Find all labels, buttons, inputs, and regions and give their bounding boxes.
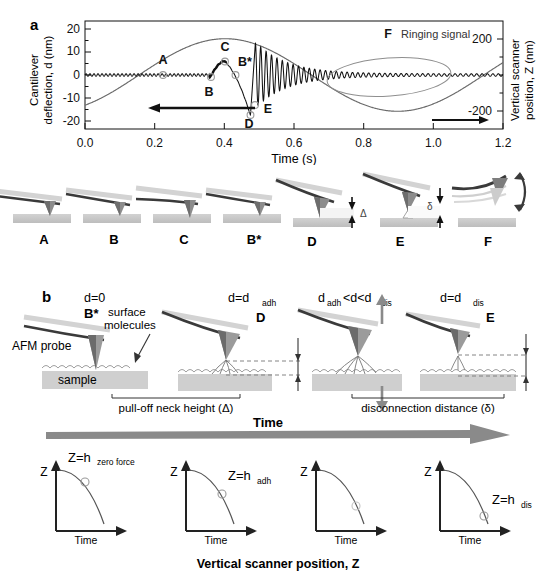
surface-molecules-line1: surface [108,306,146,318]
xtick-2: 0.4 [216,136,233,150]
pull-off-label: pull-off neck height (Δ) [119,402,234,414]
right-axis-arrow [432,116,489,124]
xtick-3: 0.6 [286,136,303,150]
time-arrow-label: Time [253,415,283,430]
svg-text:adh: adh [262,298,276,308]
axis-label-x: Time (s) [271,152,316,165]
schematic-c-label: C [179,232,189,247]
schematic-f-label: F [484,234,492,249]
ringing-signal-label: Ringing signal [401,28,470,40]
mini-plot-2-x-label: Time [205,534,228,546]
sample-label: sample [58,373,97,387]
ytick-left-n10: -10 [63,91,81,105]
schematic-d-label: D [307,234,316,249]
ytick-right-n200: -200 [468,104,492,118]
label-d: D [244,117,253,131]
label-c: C [220,40,229,54]
surface-molecules-4 [420,370,516,373]
surface-molecules-3 [312,370,400,373]
svg-text:d: d [318,291,325,305]
schematic-bstar-label: B* [247,232,262,247]
panel-a-label: a [30,16,39,33]
small-delta-symbol: δ [427,201,433,212]
stage-e: E [406,310,529,391]
panel-a-chart: a Cantilever deflection, d (nm) Vertical… [0,0,556,165]
axis-label-right-line1: Vertical scanner [509,39,521,121]
xtick-6: 1.2 [495,136,512,150]
xtick-0: 0.0 [77,136,94,150]
svg-text:adh: adh [327,298,341,308]
xtick-4: 0.8 [355,136,372,150]
axis-label-right-line2: position, Z (nm) [523,40,535,120]
mini-plot-4: Z Time Z=h dis [424,460,532,546]
schematic-b-label: B [109,232,118,247]
label-a: A [158,53,167,67]
stage-1-point-label: B* [84,306,99,321]
schematic-a: A [0,191,71,247]
stage-1-condition: d=0 [84,291,105,305]
schematic-bstar: B* [206,190,281,247]
mini-plot-4-annotation-sub: dis [521,500,532,510]
surface-molecules-line2: molecules [104,319,156,331]
ytick-left-20: 20 [67,22,81,36]
schematic-e: δ E [363,174,444,249]
sample-block-2 [178,374,272,391]
mini-plot-1-y-label: Z [40,465,47,479]
mini-plot-2-y-label: Z [170,465,177,479]
panel-b-label: b [42,288,51,305]
svg-text:d=d: d=d [228,291,249,305]
mini-plot-1-x-label: Time [75,534,98,546]
label-b: B [204,85,213,99]
mini-plot-4-annotation: Z=h [492,492,515,507]
svg-text:d=d: d=d [440,291,461,305]
ytick-left-10: 10 [67,44,81,58]
stage-4-point-label: E [486,310,495,325]
axis-label-left-line2: deflection, d (nm) [42,35,54,124]
schematic-b: B [66,190,141,247]
ytick-right-200: 200 [472,32,492,46]
disconnection-label: disconnection distance (δ) [361,402,495,414]
stage-2-point-label: D [256,310,265,325]
label-e: E [264,102,272,116]
mini-plot-1-annotation: Z=h [68,450,91,465]
xtick-5: 1.0 [425,136,442,150]
mini-plot-3-y-label: Z [300,465,307,479]
ytick-left-0: 0 [73,68,80,82]
ytick-left-n20: -20 [63,114,81,128]
label-bstar: B* [238,55,252,69]
series-deflection [85,43,503,115]
afm-probe-label: AFM probe [12,339,72,353]
mini-plot-2-annotation: Z=h [228,468,251,483]
label-f: F [384,27,392,41]
stage-d: D [162,310,301,391]
mini-plot-1: Z Time Z=h zero force [40,450,135,546]
mini-plot-3: Z Time [300,460,387,546]
mini-plot-2: Z Time Z=h adh [170,460,271,546]
schematic-e-label: E [396,234,405,249]
neck-strands-3 [336,356,376,374]
time-arrow-group: Time [0,414,556,444]
surface-molecules-arrow [134,334,150,363]
delta-bracket-2 [295,338,301,391]
schematic-d: Δ D [276,180,367,249]
mini-plots-caption: Vertical scanner position, Z [197,557,360,571]
schematics-row: A B C B* [0,166,556,278]
delta-symbol: Δ [360,208,367,219]
stage-b-star: B* AFM probe sample surface molecules [12,306,156,389]
mini-plot-2-annotation-sub: adh [257,476,271,486]
sample-block-4 [420,374,516,391]
figure-root: a Cantilever deflection, d (nm) Vertical… [0,0,556,575]
mini-plots-row: Z Time Z=h zero force Z Time Z=h adh Z T… [0,446,556,575]
stage-between [298,294,402,412]
stage-4-condition: d=d dis [440,291,484,308]
axis-label-left-line1: Cantilever [28,54,40,106]
sample-block-3 [312,374,402,391]
mini-plot-4-x-label: Time [459,534,482,546]
stage-2-condition: d=d adh [228,291,276,308]
disconnection-bracket [352,394,504,398]
x-axis-ticks: 0.0 0.2 0.4 0.6 0.8 1.0 1.2 [77,123,512,150]
schematic-f: F [452,172,525,249]
mini-plot-1-annotation-sub: zero force [97,457,135,467]
xtick-1: 0.2 [146,136,163,150]
schematic-c: C [136,188,211,247]
